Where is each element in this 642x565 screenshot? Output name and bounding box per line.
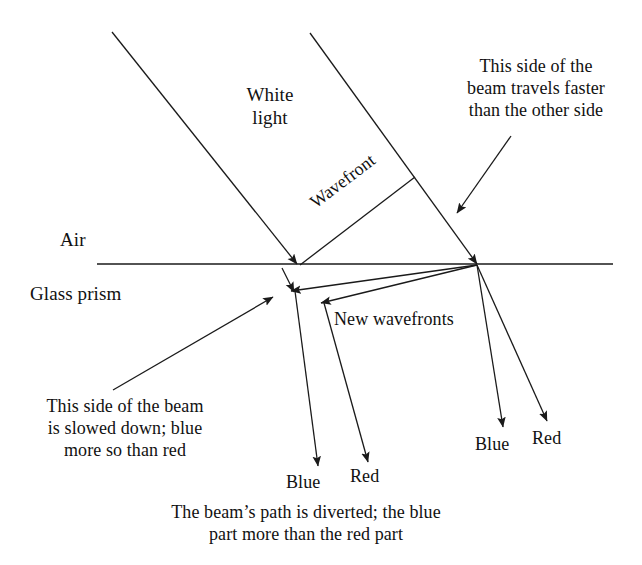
label-blue-left: Blue — [286, 472, 320, 494]
label-blue-right: Blue — [475, 434, 509, 456]
incident-ray-left — [112, 32, 297, 264]
label-white-light: White light — [207, 83, 333, 129]
label-red-left: Red — [350, 466, 379, 488]
figure-caption: The beam’s path is diverted; the blue pa… — [96, 502, 516, 546]
annotation-slowed-side: This side of the beam is slowed down; bl… — [14, 396, 236, 462]
refracted-ray-blue-right — [477, 265, 503, 427]
refracted-ray-blue-left — [295, 291, 318, 466]
callout-arrow-slowed-side — [113, 297, 273, 390]
annotation-faster-side: This side of the beam travels faster tha… — [438, 56, 634, 122]
prism-refraction-diagram: Air Glass prism White light Wavefront Th… — [0, 0, 642, 565]
refracted-ray-red-right — [477, 265, 547, 421]
entry-drop-arrow — [282, 268, 294, 292]
label-air: Air — [60, 228, 86, 251]
label-new-wavefronts: New wavefronts — [334, 309, 454, 331]
callout-arrow-faster-side — [457, 136, 511, 213]
label-red-right: Red — [532, 428, 561, 450]
label-glass-prism: Glass prism — [30, 282, 121, 305]
